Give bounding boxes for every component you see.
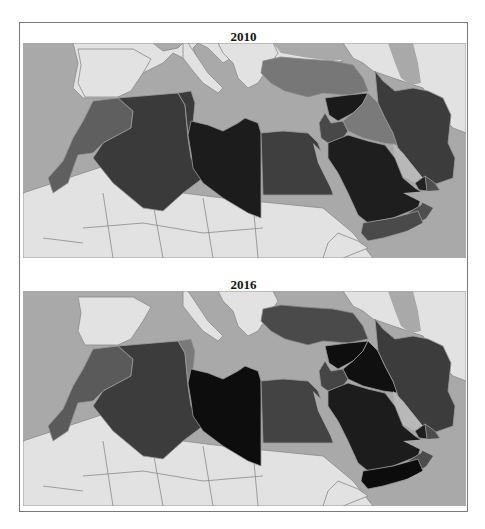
- map-2016: [23, 291, 466, 506]
- figure-frame: 2010: [19, 22, 468, 512]
- map-2010: [23, 43, 466, 258]
